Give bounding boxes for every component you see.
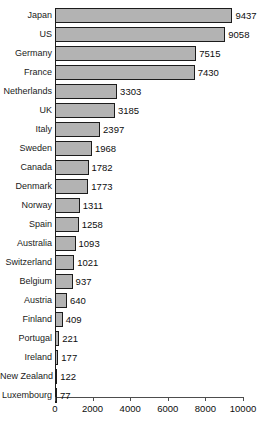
bar-row: Norway1311 (0, 198, 263, 213)
bar-row: New Zealand122 (0, 369, 263, 384)
bar-row: Austria640 (0, 293, 263, 308)
value-label: 1258 (82, 217, 103, 232)
value-label: 1773 (91, 179, 112, 194)
x-axis-tick (130, 397, 131, 401)
bar-row: UK3185 (0, 103, 263, 118)
bar (55, 27, 225, 42)
value-label: 177 (61, 350, 77, 365)
x-axis-tick (93, 397, 94, 401)
value-label: 7515 (199, 46, 220, 61)
x-axis-tick (168, 397, 169, 401)
bar-row: Denmark1773 (0, 179, 263, 194)
category-label: Netherlands (0, 84, 52, 99)
value-label: 409 (66, 312, 82, 327)
x-axis-tick-label: 8000 (195, 403, 216, 415)
value-label: 1093 (79, 236, 100, 251)
bar (55, 122, 100, 137)
bar (55, 236, 76, 251)
bar (55, 160, 89, 175)
category-label: France (0, 65, 52, 80)
category-label: Switzerland (0, 255, 52, 270)
x-axis-tick-label: 10000 (230, 403, 256, 415)
value-label: 937 (76, 274, 92, 289)
bar-row: Sweden1968 (0, 141, 263, 156)
category-label: Italy (0, 122, 52, 137)
x-axis-tick-label: 0 (52, 403, 57, 415)
value-label: 7430 (198, 65, 219, 80)
category-label: Portugal (0, 331, 52, 346)
bar-row: Finland409 (0, 312, 263, 327)
bar (55, 46, 196, 61)
value-label: 77 (60, 388, 71, 403)
bar (55, 179, 88, 194)
bar-row: Switzerland1021 (0, 255, 263, 270)
value-label: 1968 (95, 141, 116, 156)
x-axis-tick (55, 397, 56, 401)
value-label: 3303 (120, 84, 141, 99)
bar (55, 141, 92, 156)
bar (55, 274, 73, 289)
value-label: 1311 (83, 198, 103, 213)
value-label: 1021 (77, 255, 98, 270)
category-label: Japan (0, 8, 52, 23)
value-label: 2397 (103, 122, 124, 137)
bar (55, 84, 117, 99)
bar-row: Portugal221 (0, 331, 263, 346)
bar (55, 65, 195, 80)
category-label: Austria (0, 293, 52, 308)
bar (55, 350, 58, 365)
bar (55, 217, 79, 232)
bar (55, 312, 63, 327)
x-axis-tick-label: 2000 (82, 403, 103, 415)
category-label: Sweden (0, 141, 52, 156)
value-label: 122 (60, 369, 76, 384)
category-label: Norway (0, 198, 52, 213)
value-label: 9058 (228, 27, 249, 42)
bar-row: Spain1258 (0, 217, 263, 232)
x-axis-tick (205, 397, 206, 401)
bar-row: Australia1093 (0, 236, 263, 251)
bar-row: US9058 (0, 27, 263, 42)
category-label: UK (0, 103, 52, 118)
category-label: Germany (0, 46, 52, 61)
bar (55, 369, 57, 384)
value-label: 640 (70, 293, 86, 308)
x-axis-tick-label: 6000 (157, 403, 178, 415)
category-label: US (0, 27, 52, 42)
value-label: 9437 (235, 8, 256, 23)
bar-row: Netherlands3303 (0, 84, 263, 99)
bar (55, 331, 59, 346)
category-label: Belgium (0, 274, 52, 289)
x-axis-tick-label: 4000 (120, 403, 141, 415)
category-label: Finland (0, 312, 52, 327)
bar-row: Luxembourg77 (0, 388, 263, 403)
bar (55, 8, 232, 23)
category-label: Luxembourg (0, 388, 52, 403)
bar-row: Germany7515 (0, 46, 263, 61)
category-label: New Zealand (0, 369, 52, 384)
bar-row: Italy2397 (0, 122, 263, 137)
bar-row: France7430 (0, 65, 263, 80)
value-label: 3185 (118, 103, 139, 118)
bar-row: Canada1782 (0, 160, 263, 175)
category-label: Ireland (0, 350, 52, 365)
category-label: Spain (0, 217, 52, 232)
bar (55, 103, 115, 118)
bar-row: Belgium937 (0, 274, 263, 289)
category-label: Denmark (0, 179, 52, 194)
bar (55, 255, 74, 270)
x-axis-tick (243, 397, 244, 401)
category-label: Canada (0, 160, 52, 175)
bar (55, 293, 67, 308)
bar-row: Ireland177 (0, 350, 263, 365)
category-label: Australia (0, 236, 52, 251)
value-label: 1782 (92, 160, 113, 175)
value-label: 221 (62, 331, 78, 346)
bar (55, 198, 80, 213)
bar-chart: Japan9437US9058Germany7515France7430Neth… (0, 0, 263, 426)
bar-row: Japan9437 (0, 8, 263, 23)
